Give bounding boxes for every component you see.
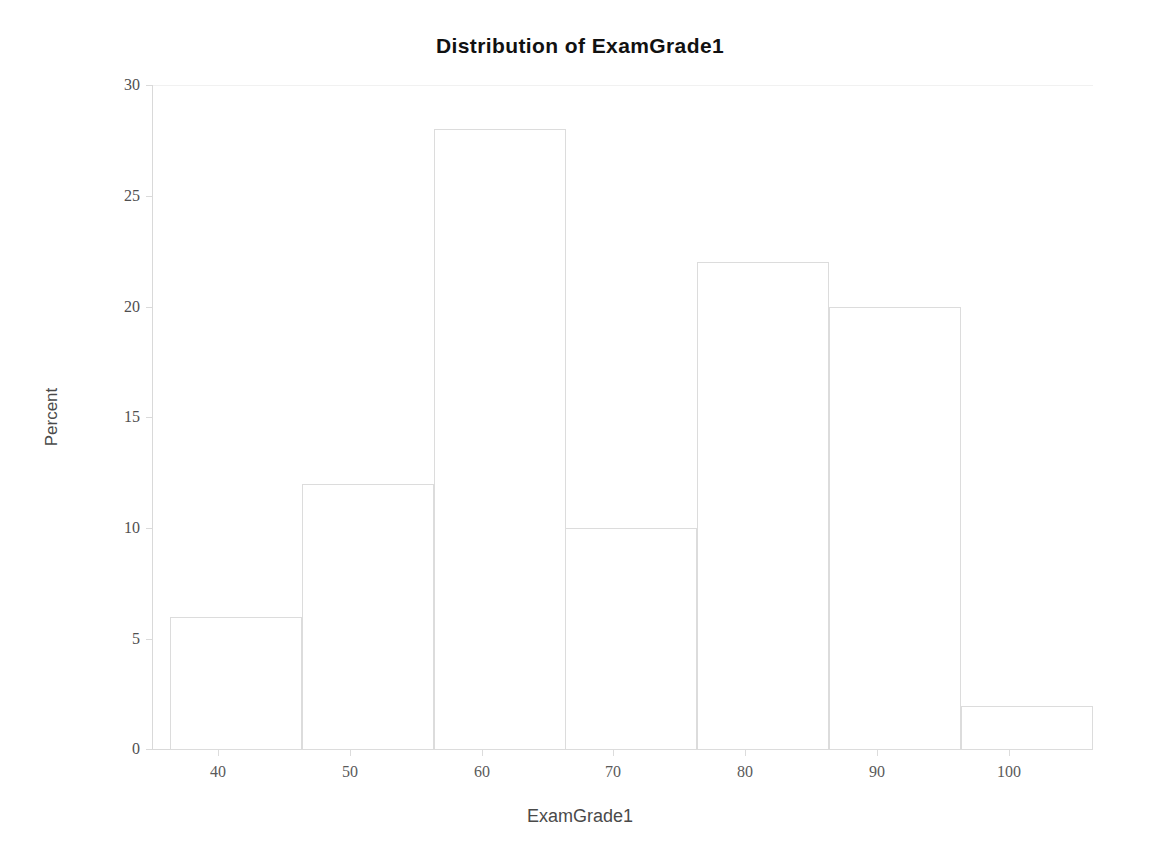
y-axis-title: Percent (42, 388, 62, 447)
x-tick-label: 90 (869, 763, 885, 781)
y-tick-label: 5 (132, 630, 140, 648)
histogram-bar (434, 129, 566, 750)
y-tick-label: 20 (124, 298, 140, 316)
y-axis-line (152, 85, 153, 750)
y-tick-label: 0 (132, 740, 140, 758)
plot-frame-top (152, 85, 1093, 86)
plot-area: 0 5 10 15 20 25 30 40 50 60 70 80 90 100 (152, 85, 1093, 750)
x-tick-label: 50 (342, 763, 358, 781)
x-tick-mark (350, 750, 351, 756)
x-tick-label: 70 (605, 763, 621, 781)
y-tick-mark (146, 639, 152, 640)
histogram-bar (170, 617, 302, 750)
y-tick-label: 10 (124, 519, 140, 537)
histogram-bar (961, 706, 1093, 750)
x-tick-mark (218, 750, 219, 756)
x-tick-label: 100 (997, 763, 1021, 781)
x-tick-label: 80 (737, 763, 753, 781)
histogram-bar (697, 262, 829, 750)
histogram-bar (829, 307, 961, 750)
x-tick-label: 60 (474, 763, 490, 781)
y-tick-mark (146, 85, 152, 86)
x-axis-title: ExamGrade1 (0, 806, 1160, 827)
x-tick-mark (877, 750, 878, 756)
y-tick-mark (146, 749, 152, 750)
x-tick-mark (1009, 750, 1010, 756)
page-title: Distribution of ExamGrade1 (0, 34, 1160, 58)
x-tick-mark (613, 750, 614, 756)
x-tick-mark (745, 750, 746, 756)
y-tick-label: 15 (124, 408, 140, 426)
y-tick-mark (146, 307, 152, 308)
y-tick-label: 30 (124, 76, 140, 94)
y-tick-mark (146, 196, 152, 197)
histogram-bar (565, 528, 697, 750)
x-tick-mark (482, 750, 483, 756)
chart-canvas: Distribution of ExamGrade1 0 5 10 15 20 … (0, 0, 1160, 864)
y-tick-mark (146, 528, 152, 529)
y-tick-label: 25 (124, 187, 140, 205)
y-tick-mark (146, 417, 152, 418)
histogram-bar (302, 484, 434, 750)
x-tick-label: 40 (210, 763, 226, 781)
